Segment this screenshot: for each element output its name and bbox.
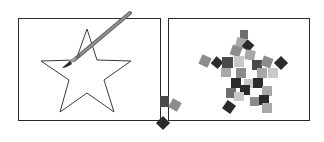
illustration-canvas [0,0,324,142]
falling-squares-icon [156,96,182,130]
squares-star-icon [198,30,288,114]
star-outline-icon [41,29,131,112]
paintbrush-icon [62,13,130,68]
